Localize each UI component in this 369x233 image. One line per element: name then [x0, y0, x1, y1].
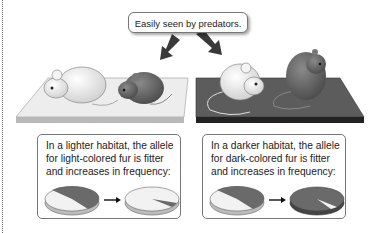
pie-before — [210, 186, 264, 215]
pie-after — [125, 187, 179, 215]
pie-after — [290, 187, 344, 215]
predator-callout: Easily seen by predators. — [128, 12, 248, 33]
light-habitat-pies — [38, 179, 182, 219]
right-arrow-icon — [104, 197, 121, 203]
dark-habitat-pies — [203, 179, 347, 219]
dark-habitat-info-box: In a darker habitat, the allele for dark… — [202, 134, 346, 219]
arrow-down-left-icon — [160, 34, 180, 60]
light-habitat-caption: In a lighter habitat, the allele for lig… — [46, 139, 173, 179]
right-arrow-icon — [269, 197, 286, 203]
light-habitat-info-box: In a lighter habitat, the allele for lig… — [37, 134, 181, 219]
pie-before — [45, 186, 99, 215]
dark-habitat-caption: In a darker habitat, the allele for dark… — [211, 139, 340, 179]
